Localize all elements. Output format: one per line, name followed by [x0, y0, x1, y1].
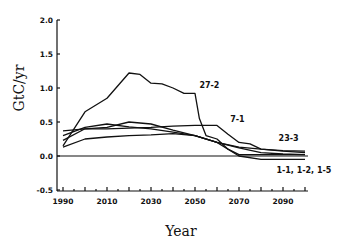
y-tick-label: 0.0: [40, 152, 53, 161]
y-tick-label: -0.5: [37, 186, 53, 195]
y-tick-label: 1.5: [40, 50, 53, 59]
series-label: 27-2: [199, 81, 219, 90]
x-tick-label: 2010: [97, 197, 118, 206]
series-line: [63, 125, 305, 152]
series-label: 23-3: [279, 134, 299, 143]
series-line: [63, 73, 305, 155]
x-tick-label: 2090: [273, 197, 294, 206]
y-axis-title: GtC/yr: [11, 64, 27, 111]
series-label: 7-1: [230, 115, 245, 124]
y-tick-label: 0.5: [40, 118, 53, 127]
y-tick-label: 2.0: [40, 16, 53, 25]
tick-labels: 2.01.51.00.50.0-0.5199020102030205020702…: [37, 16, 294, 206]
x-tick-label: 1990: [53, 197, 74, 206]
x-tick-label: 2050: [185, 197, 206, 206]
line-chart: 2.01.51.00.50.0-0.5199020102030205020702…: [0, 0, 338, 247]
series-lines: [63, 73, 305, 159]
x-tick-label: 2070: [229, 197, 250, 206]
series-label: 1-1, 1-2, 1-5: [276, 166, 331, 175]
x-tick-label: 2030: [141, 197, 162, 206]
y-tick-label: 1.0: [40, 84, 53, 93]
x-axis-title: Year: [164, 223, 197, 239]
series-line: [63, 134, 305, 152]
